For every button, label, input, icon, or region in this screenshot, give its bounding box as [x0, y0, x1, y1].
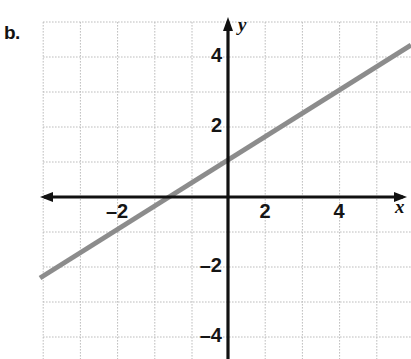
y-tick-label-neg2: –2 — [178, 254, 222, 277]
y-axis-label: y — [238, 14, 246, 36]
x-axis-arrow-left — [40, 192, 53, 202]
x-axis-label: x — [395, 196, 405, 218]
graph-figure: b. — [0, 0, 411, 359]
x-tick-label-4: 4 — [319, 200, 359, 223]
y-tick-label-4: 4 — [188, 44, 222, 67]
y-tick-label-2: 2 — [188, 114, 222, 137]
y-axis — [223, 17, 233, 359]
x-tick-label-neg2: –2 — [92, 200, 142, 223]
y-axis-arrow-up — [223, 17, 233, 31]
x-tick-label-2: 2 — [245, 200, 285, 223]
y-tick-label-neg4: –4 — [178, 324, 222, 347]
